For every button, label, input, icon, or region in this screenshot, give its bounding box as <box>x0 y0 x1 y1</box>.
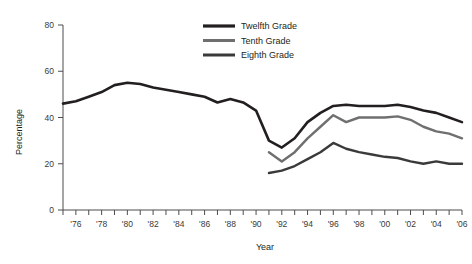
x-tick-label: '02 <box>405 219 416 229</box>
legend-label: Tenth Grade <box>241 36 291 46</box>
x-tick-label: '98 <box>353 219 364 229</box>
y-axis-title: Percentage <box>14 109 24 155</box>
x-tick-label: '82 <box>148 219 159 229</box>
x-tick-label: '80 <box>122 219 133 229</box>
legend-label: Twelfth Grade <box>241 21 297 31</box>
x-tick-label: '04 <box>431 219 442 229</box>
legend-label: Eighth Grade <box>241 50 294 60</box>
x-tick-label: '78 <box>96 219 107 229</box>
x-axis: '76'78'80'82'84'86'88'90'92'94'96'98'00'… <box>63 210 468 229</box>
y-tick-label: 0 <box>49 205 54 215</box>
x-tick-label: '84 <box>173 219 184 229</box>
y-tick-label: 80 <box>45 20 55 30</box>
y-axis: 020406080 <box>45 20 63 215</box>
series-lines <box>63 83 462 173</box>
chart-canvas: 020406080 '76'78'80'82'84'86'88'90'92'94… <box>0 0 472 264</box>
x-tick-label: '92 <box>276 219 287 229</box>
x-tick-label: '94 <box>302 219 313 229</box>
x-axis-title: Year <box>256 242 274 252</box>
x-tick-label: '86 <box>199 219 210 229</box>
x-tick-label: '06 <box>456 219 467 229</box>
x-tick-label: '88 <box>225 219 236 229</box>
series-line-twelfth-grade <box>63 83 462 148</box>
x-tick-label: '00 <box>379 219 390 229</box>
x-tick-label: '76 <box>70 219 81 229</box>
y-tick-label: 60 <box>45 66 55 76</box>
x-tick-label: '96 <box>328 219 339 229</box>
chart-legend: Twelfth GradeTenth GradeEighth Grade <box>203 21 297 60</box>
y-tick-label: 40 <box>45 113 55 123</box>
y-tick-label: 20 <box>45 159 55 169</box>
x-tick-label: '90 <box>251 219 262 229</box>
line-chart: 020406080 '76'78'80'82'84'86'88'90'92'94… <box>0 0 472 264</box>
